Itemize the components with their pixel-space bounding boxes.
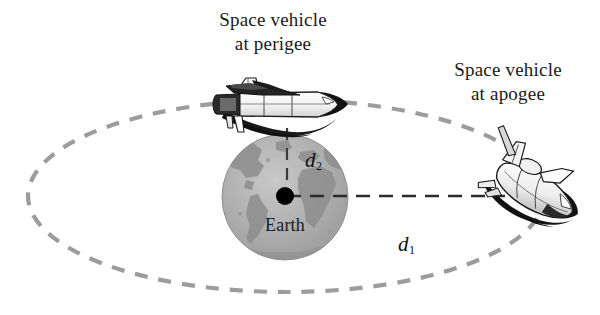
apogee-label-line2: at apogee (420, 82, 596, 106)
perigee-label-line2: at perigee (0, 32, 546, 56)
earth-label: Earth (225, 213, 345, 237)
d2-distance-label: d2 (305, 148, 322, 174)
perigee-label: Space vehicle at perigee (0, 8, 546, 56)
apogee-label-line1: Space vehicle (420, 58, 596, 82)
perigee-label-line1: Space vehicle (0, 8, 546, 32)
d2-subscript: 2 (316, 159, 323, 173)
apogee-label: Space vehicle at apogee (420, 58, 596, 106)
d2-symbol: d (305, 148, 316, 172)
space-shuttle-apogee (470, 124, 598, 237)
earth-center-dot (276, 187, 294, 205)
d1-subscript: 1 (409, 243, 416, 257)
space-shuttle-perigee (213, 78, 348, 137)
d1-distance-label: d1 (398, 232, 415, 258)
d1-symbol: d (398, 232, 409, 256)
